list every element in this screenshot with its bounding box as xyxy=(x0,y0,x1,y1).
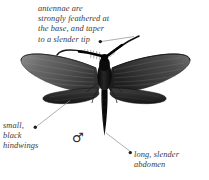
hindwings-callout-text: small, black hindwings xyxy=(3,121,38,152)
right-antenna xyxy=(107,36,139,59)
left-forewing xyxy=(21,54,99,92)
bullet-abdomen xyxy=(129,151,132,154)
right-forewing xyxy=(109,54,190,92)
leader-line-abdomen xyxy=(106,133,132,154)
thorax xyxy=(97,57,111,91)
figure-panel: antennae are strongly feathered at the b… xyxy=(0,0,209,180)
left-hindwing xyxy=(43,88,99,104)
leader-line-hindwings xyxy=(34,101,70,130)
male-sex-symbol: ♂ xyxy=(72,130,84,145)
abdomen-callout-text: long, slender abdomen xyxy=(134,150,179,170)
right-hindwing xyxy=(110,88,166,104)
antennae-callout-text: antennae are strongly feathered at the b… xyxy=(38,4,109,45)
abdomen xyxy=(101,90,107,136)
